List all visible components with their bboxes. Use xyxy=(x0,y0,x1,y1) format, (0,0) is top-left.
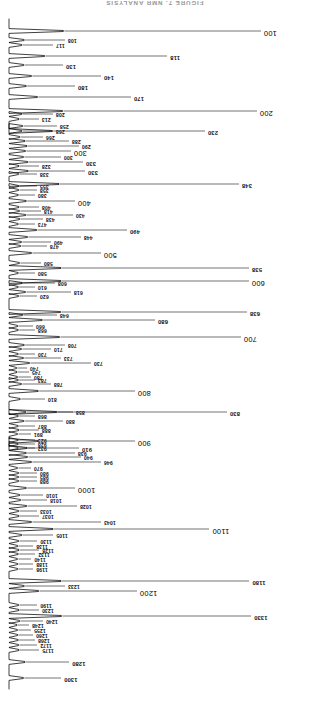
peak-label: 290 xyxy=(82,144,91,149)
peak-label: 430 xyxy=(76,213,85,218)
peak-label: 348 xyxy=(242,183,252,188)
peak-label: 300 xyxy=(74,151,87,156)
peak-label: 170 xyxy=(134,96,144,101)
peak-label: 887 xyxy=(38,424,47,429)
peak-label: 538 xyxy=(252,267,262,272)
peak-label: 1033 xyxy=(40,509,52,514)
peak-label: 180 xyxy=(78,85,88,90)
peak-label: 108 xyxy=(68,38,77,43)
peak-label: 900 xyxy=(138,441,151,446)
peak-label: 500 xyxy=(104,253,117,258)
peak-label: 600 xyxy=(252,281,265,286)
peak-label: 868 xyxy=(38,414,47,419)
trace-group xyxy=(9,19,63,689)
peak-label: 1028 xyxy=(80,504,92,509)
peak-label: 580 xyxy=(38,271,47,276)
spectrum-trace-path xyxy=(9,19,63,689)
peak-label: 338 xyxy=(40,172,49,177)
peak-label: 1280 xyxy=(72,661,85,666)
peak-label: 1105 xyxy=(56,533,67,538)
peak-label: 740 xyxy=(30,366,39,371)
peak-label: 1248 xyxy=(32,623,44,628)
peak-label: 288 xyxy=(72,139,81,144)
peak-label: 300 xyxy=(64,155,73,160)
peak-label: 1330 xyxy=(254,615,267,620)
peak-label: 130 xyxy=(66,64,76,69)
peak-label: 1100 xyxy=(212,529,229,534)
peak-label: 730 xyxy=(38,352,47,357)
peak-label: 580 xyxy=(44,261,53,266)
peak-label: 355 xyxy=(40,184,49,189)
peak-label: 266 xyxy=(46,135,55,140)
peak-label: 800 xyxy=(138,391,151,396)
peak-label: 117 xyxy=(56,43,65,48)
peak-label: 648 xyxy=(60,313,69,318)
peak-label: 910 xyxy=(82,447,92,452)
peak-label: 100 xyxy=(264,31,277,36)
peak-label: 858 xyxy=(76,410,85,415)
figure-page: FIGURE 7. NMR ANALYSIS 13001280117511721… xyxy=(0,0,309,709)
peak-label: 448 xyxy=(84,235,93,240)
peak-label: 923 xyxy=(38,438,47,443)
peak-label: 733 xyxy=(64,356,73,361)
peak-label: 330 xyxy=(86,161,96,166)
peak-label: 400 xyxy=(78,201,91,206)
peak-label: 620 xyxy=(40,294,49,299)
peak-label: 1233 xyxy=(68,584,80,589)
peak-label: 1190 xyxy=(40,603,51,608)
peak-label: 638 xyxy=(250,311,260,316)
peak-label: 330 xyxy=(88,170,98,175)
peak-label: 1010 xyxy=(46,493,58,498)
peak-label: 490 xyxy=(130,229,140,234)
peak-label: 700 xyxy=(244,337,257,342)
peak-label: 880 xyxy=(66,419,75,424)
peak-label: 230 xyxy=(208,130,218,135)
peak-label: 810 xyxy=(48,397,57,402)
peak-label: 328 xyxy=(42,164,51,169)
peak-label: 710 xyxy=(54,347,63,352)
peak-label: 213 xyxy=(42,117,51,122)
peak-label: 708 xyxy=(68,343,77,348)
peak-label: 946 xyxy=(104,460,113,465)
peak-label: 1043 xyxy=(104,520,116,525)
peak-label: 140 xyxy=(104,75,114,80)
peak-label: 730 xyxy=(94,361,103,366)
peak-label: 830 xyxy=(230,411,240,416)
leader-line-group xyxy=(18,31,261,678)
peak-label: 1180 xyxy=(252,580,265,585)
peak-label: 610 xyxy=(38,285,47,290)
peak-label: 490 xyxy=(54,240,63,245)
peak-label: 680 xyxy=(158,319,168,324)
peak-label: 618 xyxy=(74,290,83,295)
peak-label: 1300 xyxy=(64,677,77,682)
peak-label: 1130 xyxy=(40,539,51,544)
peak-label: 258 xyxy=(60,124,69,129)
peak-label: 438 xyxy=(46,217,55,222)
peak-label: 200 xyxy=(260,111,273,116)
peak-label: 118 xyxy=(170,55,180,60)
peak-label: 788 xyxy=(54,382,63,387)
peak-label: 408 xyxy=(42,205,51,210)
peak-label: 208 xyxy=(56,112,65,117)
peak-label: 608 xyxy=(58,281,67,286)
peak-label: 1240 xyxy=(46,619,58,624)
peak-label: 1000 xyxy=(78,488,96,493)
peak-label: 970 xyxy=(34,466,43,471)
rotated-figure-canvas: FIGURE 7. NMR ANALYSIS 13001280117511721… xyxy=(0,0,309,709)
peak-label: 660 xyxy=(36,324,45,329)
peak-label: 1200 xyxy=(140,591,158,596)
